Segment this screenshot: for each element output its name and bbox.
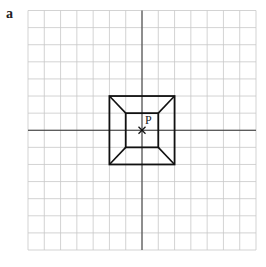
panel-label: a — [6, 6, 13, 22]
grid-diagram — [0, 0, 266, 267]
corner-edge — [158, 147, 174, 164]
point-p-label: P — [145, 113, 152, 128]
figure: a P — [0, 0, 266, 267]
corner-edge — [109, 96, 125, 113]
corner-edge — [109, 147, 125, 164]
corner-edge — [158, 96, 174, 113]
